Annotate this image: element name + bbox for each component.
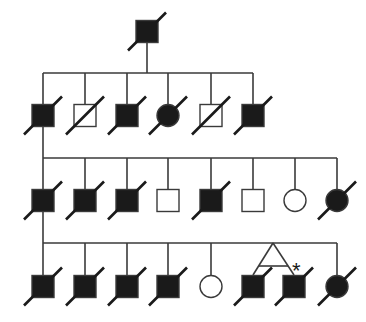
proband-asterisk: * bbox=[292, 258, 301, 283]
male-square-icon bbox=[242, 190, 264, 212]
pedigree-canvas: * bbox=[0, 0, 366, 322]
individual-III-4 bbox=[157, 190, 179, 212]
individual-III-6 bbox=[242, 190, 264, 212]
individual-III-7 bbox=[284, 190, 306, 212]
connector-lines bbox=[43, 43, 337, 275]
female-circle-icon bbox=[284, 190, 306, 212]
pedigree-diagram: Pedigree chart bbox=[0, 0, 366, 322]
deceased-slash-icon bbox=[234, 268, 272, 306]
female-circle-icon bbox=[200, 276, 222, 298]
male-square-icon bbox=[157, 190, 179, 212]
individual-IV-6 bbox=[234, 268, 272, 306]
individuals bbox=[24, 13, 356, 306]
individual-IV-5 bbox=[200, 276, 222, 298]
